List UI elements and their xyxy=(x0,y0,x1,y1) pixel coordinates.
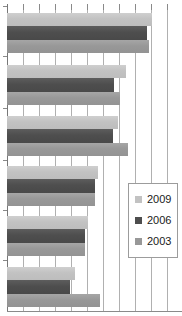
bar-2003-cat3 xyxy=(7,143,128,156)
bar-2009-cat4 xyxy=(7,166,98,179)
plot-area xyxy=(7,4,182,312)
bar-chart: 2009 2006 2003 xyxy=(0,0,182,316)
tick-top-2 xyxy=(39,4,40,10)
bar-2006-cat5 xyxy=(7,229,85,243)
bar-2006-cat3 xyxy=(7,129,113,143)
chart-legend: 2009 2006 2003 xyxy=(128,183,178,258)
bar-2009-cat1 xyxy=(7,13,152,26)
bar-2003-cat1 xyxy=(7,40,149,53)
bar-2009-cat2 xyxy=(7,65,126,78)
bar-2003-cat4 xyxy=(7,193,95,206)
legend-swatch-2006 xyxy=(135,217,142,224)
category-tick-4 xyxy=(3,160,7,161)
bar-2009-cat6 xyxy=(7,267,75,280)
legend-label-2003: 2003 xyxy=(147,236,171,247)
tick-top-5 xyxy=(87,4,88,10)
bar-2003-cat6 xyxy=(7,294,100,307)
legend-label-2009: 2009 xyxy=(147,194,171,205)
tick-top-6 xyxy=(103,4,104,10)
category-tick-6 xyxy=(3,260,7,261)
category-axis-line xyxy=(7,311,182,312)
tick-top-9 xyxy=(151,4,152,10)
tick-top-8 xyxy=(135,4,136,10)
bar-2006-cat6 xyxy=(7,280,70,294)
legend-item-2009[interactable]: 2009 xyxy=(135,192,177,208)
tick-top-4 xyxy=(71,4,72,10)
bar-2006-cat1 xyxy=(7,26,147,40)
tick-top-10 xyxy=(167,4,168,10)
tick-top-3 xyxy=(55,4,56,10)
category-tick-1 xyxy=(3,6,7,7)
legend-swatch-2003 xyxy=(135,238,142,245)
gridline-9 xyxy=(151,4,152,312)
gridline-10 xyxy=(167,4,168,312)
bar-2003-cat5 xyxy=(7,243,85,256)
category-tick-3 xyxy=(3,108,7,109)
tick-top-7 xyxy=(119,4,120,10)
tick-top-1 xyxy=(23,4,24,10)
bar-2006-cat2 xyxy=(7,78,114,92)
bar-2009-cat3 xyxy=(7,116,118,129)
legend-item-2006[interactable]: 2006 xyxy=(135,213,177,229)
legend-item-2003[interactable]: 2003 xyxy=(135,233,177,249)
bar-2003-cat2 xyxy=(7,92,120,105)
category-tick-2 xyxy=(3,56,7,57)
category-tick-5 xyxy=(3,210,7,211)
bar-2006-cat4 xyxy=(7,179,95,193)
legend-swatch-2009 xyxy=(135,196,142,203)
legend-label-2006: 2006 xyxy=(147,215,171,226)
bar-2009-cat5 xyxy=(7,216,88,229)
